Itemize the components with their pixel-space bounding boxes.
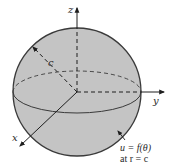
sphere-diagram: z y x c u = f(θ) at r = c	[0, 0, 173, 167]
annotation-line-2: at r = c	[120, 153, 151, 164]
x-axis-label: x	[12, 133, 18, 143]
radius-label: c	[48, 58, 54, 68]
z-axis-label: z	[68, 5, 73, 15]
y-axis-label: y	[153, 96, 159, 106]
boundary-condition-annotation: u = f(θ) at r = c	[120, 142, 151, 164]
annotation-line-1: u = f(θ)	[120, 142, 151, 153]
